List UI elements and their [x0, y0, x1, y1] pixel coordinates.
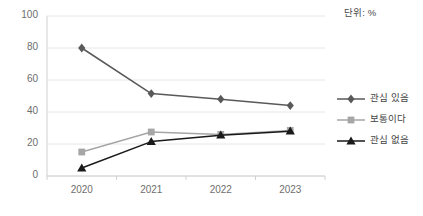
square-marker-icon — [148, 129, 155, 136]
diamond-marker-icon — [347, 94, 354, 103]
y-tick-label: 100 — [10, 9, 38, 20]
legend-item[interactable]: 관심 있음 — [336, 88, 423, 105]
x-tick-label: 2020 — [57, 184, 107, 195]
x-tick-label: 2021 — [126, 184, 176, 195]
chart-legend: 관심 있음보통이다관심 없음 — [336, 88, 423, 151]
triangle-marker-icon — [336, 133, 366, 145]
square-marker-icon — [348, 116, 355, 123]
diamond-marker-icon — [217, 95, 224, 104]
x-tick-marks — [47, 176, 325, 180]
legend-item-label: 관심 없음 — [370, 132, 409, 146]
legend-item[interactable]: 보통이다 — [336, 109, 423, 126]
x-tick-label: 2022 — [196, 184, 246, 195]
diamond-marker-icon — [148, 89, 155, 98]
diamond-marker-icon — [78, 44, 85, 53]
x-tick-label: 2023 — [265, 184, 315, 195]
y-tick-label: 60 — [10, 73, 38, 84]
line-chart: 단위: % 100806040200 2020202120222023 관심 있… — [0, 0, 423, 216]
y-tick-label: 40 — [10, 105, 38, 116]
series-line — [82, 48, 291, 106]
y-tick-label: 80 — [10, 41, 38, 52]
legend-item-label: 보통이다 — [370, 111, 406, 125]
square-marker-icon — [336, 112, 366, 124]
series-line — [82, 131, 291, 168]
diamond-marker-icon — [336, 91, 366, 103]
square-marker-icon — [78, 149, 85, 156]
y-tick-label: 20 — [10, 137, 38, 148]
series-layer — [77, 44, 295, 172]
legend-item-label: 관심 있음 — [370, 90, 409, 104]
diamond-marker-icon — [287, 101, 294, 110]
y-tick-label: 0 — [10, 169, 38, 180]
legend-item[interactable]: 관심 없음 — [336, 130, 423, 147]
